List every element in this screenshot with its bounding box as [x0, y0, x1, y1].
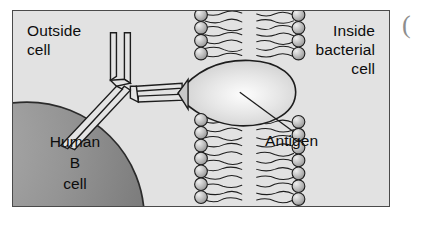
page-edge-artifact: (	[402, 12, 411, 38]
membrane-tails-upper	[205, 11, 294, 57]
label-outside-cell: Outside cell	[27, 21, 81, 59]
label-antigen: Antigen	[265, 131, 318, 150]
label-human-b-cell: Human B cell	[19, 131, 131, 194]
label-inside-bacterial-cell: Inside bacterial cell	[316, 21, 376, 78]
diagram-frame: Outside cell Inside bacterial cell Human…	[12, 10, 390, 207]
figure-canvas: Outside cell Inside bacterial cell Human…	[0, 0, 424, 225]
